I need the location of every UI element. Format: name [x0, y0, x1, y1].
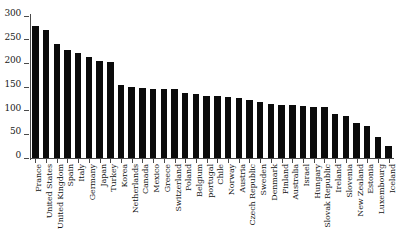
y-tick-label: 250: [0, 33, 21, 42]
x-tick-label: France: [35, 164, 43, 192]
bar-slot: [236, 16, 242, 158]
x-tick-label: Austria: [239, 164, 247, 193]
bar: [310, 107, 316, 158]
x-tick-label: Slovenia: [346, 164, 354, 198]
y-tick-mark: [24, 39, 29, 40]
x-tick-mark: [142, 159, 143, 163]
bar-slot: [96, 16, 102, 158]
x-tick-label: Israel: [303, 164, 311, 187]
bar: [246, 100, 252, 158]
x-tick-label: Australia: [292, 164, 300, 200]
x-tick-mark: [367, 159, 368, 163]
x-tick-mark: [121, 159, 122, 163]
x-tick-label: Slovak Republic: [324, 164, 332, 228]
x-tick-label: Netherlands: [132, 164, 140, 213]
x-tick-mark: [314, 159, 315, 163]
y-tick-label: 200: [0, 56, 21, 65]
bar-slot: [300, 16, 306, 158]
bar: [353, 123, 359, 158]
bar: [182, 93, 188, 158]
x-tick-mark: [378, 159, 379, 163]
bar-chart-figure: 050100150200250300 FranceUnited StatesUn…: [0, 0, 398, 251]
x-tick-mark: [228, 159, 229, 163]
bar: [32, 26, 38, 158]
bar-slot: [161, 16, 167, 158]
bar: [268, 104, 274, 158]
x-tick-label: Switzerland: [175, 164, 183, 211]
x-tick-label: Finland: [282, 164, 290, 194]
bar-slot: [343, 16, 349, 158]
x-tick-mark: [132, 159, 133, 163]
x-tick-label: Hungary: [314, 164, 322, 199]
bar: [96, 61, 102, 158]
x-tick-label: Poland: [185, 164, 193, 191]
bar: [321, 107, 327, 158]
bar: [214, 96, 220, 158]
bar-slot: [289, 16, 295, 158]
y-tick-label: 300: [0, 9, 21, 18]
x-tick-mark: [335, 159, 336, 163]
bar-slot: [203, 16, 209, 158]
y-tick-mark: [24, 87, 29, 88]
x-tick-mark: [292, 159, 293, 163]
x-tick-mark: [46, 159, 47, 163]
x-tick-label: portugal: [207, 164, 215, 198]
x-axis-labels: FranceUnited StatesUnited KingdomSpainIt…: [30, 159, 394, 251]
x-tick-mark: [185, 159, 186, 163]
x-tick-label: Denmark: [271, 164, 279, 201]
bar-slot: [139, 16, 145, 158]
bar-slot: [278, 16, 284, 158]
x-tick-mark: [389, 159, 390, 163]
bar-slot: [246, 16, 252, 158]
bar: [375, 137, 381, 158]
x-tick-label: Italy: [78, 164, 86, 182]
bar: [300, 106, 306, 158]
bar: [225, 97, 231, 158]
bar: [161, 89, 167, 158]
bar: [236, 98, 242, 158]
bar-slot: [353, 16, 359, 158]
bar: [54, 44, 60, 158]
x-tick-label: Belgium: [196, 164, 204, 197]
bar: [86, 57, 92, 158]
x-tick-mark: [35, 159, 36, 163]
bar: [203, 96, 209, 158]
bar: [289, 105, 295, 158]
x-tick-mark: [57, 159, 58, 163]
x-tick-mark: [100, 159, 101, 163]
x-tick-label: Chile: [217, 164, 225, 185]
x-tick-mark: [260, 159, 261, 163]
x-tick-label: Iceland: [389, 164, 397, 193]
y-tick-mark: [24, 63, 29, 64]
bar: [75, 53, 81, 158]
bar: [257, 102, 263, 158]
x-tick-label: Korea: [121, 164, 129, 187]
x-tick-mark: [196, 159, 197, 163]
x-tick-label: Sweden: [260, 164, 268, 195]
x-tick-label: Germany: [89, 164, 97, 200]
x-tick-label: Czech Republic: [249, 164, 257, 226]
bar-slot: [375, 16, 381, 158]
x-tick-label: Canada: [142, 164, 150, 194]
bar-slot: [310, 16, 316, 158]
bar: [364, 126, 370, 158]
bar-slot: [128, 16, 134, 158]
x-tick-mark: [217, 159, 218, 163]
bar-slot: [268, 16, 274, 158]
x-tick-mark: [271, 159, 272, 163]
x-tick-mark: [153, 159, 154, 163]
y-tick-label: 100: [0, 104, 21, 113]
x-tick-mark: [110, 159, 111, 163]
y-tick-mark: [24, 110, 29, 111]
bar-slot: [43, 16, 49, 158]
bar: [118, 85, 124, 158]
x-tick-label: Mexico: [153, 164, 161, 193]
bar: [128, 87, 134, 158]
bar-slot: [150, 16, 156, 158]
x-tick-label: United States: [46, 164, 54, 218]
x-tick-mark: [357, 159, 358, 163]
y-tick-mark: [24, 134, 29, 135]
bar: [278, 105, 284, 158]
bar-slot: [321, 16, 327, 158]
bar-slot: [118, 16, 124, 158]
